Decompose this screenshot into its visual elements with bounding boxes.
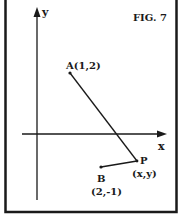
x-axis-arrow-icon <box>157 131 167 138</box>
segment-a-p <box>70 73 137 161</box>
x-axis-label: x <box>158 140 165 153</box>
point-b <box>99 165 102 168</box>
segment-b-p <box>101 161 137 167</box>
figure-diagram: y x FIG. 7 A(1,2) P (x,y) B (2,-1) <box>0 0 180 219</box>
point-a-label: A(1,2) <box>65 60 101 72</box>
point-p-label: P <box>140 155 148 166</box>
point-p <box>136 160 139 163</box>
point-b-coords: (2,-1) <box>91 186 122 198</box>
y-axis-label: y <box>41 6 49 19</box>
point-p-coords: (x,y) <box>132 168 157 180</box>
point-a <box>68 71 71 74</box>
figure-frame <box>6 0 177 212</box>
y-axis-arrow-icon <box>34 7 41 17</box>
figure-title: FIG. 7 <box>133 12 167 23</box>
point-b-label: B <box>97 173 105 184</box>
